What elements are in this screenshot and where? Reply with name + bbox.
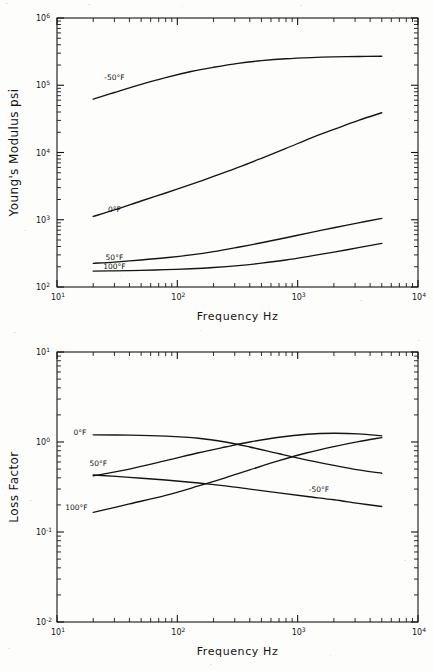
- curve-label: 100°F: [65, 503, 87, 512]
- data-curve: [93, 56, 382, 99]
- y-axis-tick-label: 101: [36, 346, 50, 358]
- scan-artifact-speck: [418, 340, 420, 341]
- x-axis-title: Frequency Hz: [197, 645, 279, 658]
- scan-artifact-speck: [182, 6, 183, 7]
- scan-artifact-speck: [404, 560, 406, 561]
- curve-label: -50°F: [104, 73, 124, 82]
- curve-label: -50°F: [309, 485, 329, 494]
- scan-artifact-speck: [24, 230, 26, 231]
- y-axis-title: Loss Factor: [7, 451, 21, 522]
- data-curve: [93, 433, 382, 476]
- curve-label: 0°F: [73, 428, 86, 437]
- scan-artifact-speck: [14, 332, 16, 333]
- y-axis-title: Young's Modulus psi: [7, 89, 21, 218]
- x-axis-tick-label: 104: [412, 626, 426, 638]
- data-curve: [93, 218, 382, 263]
- y-axis-tick-label: 106: [36, 12, 50, 24]
- curve-label: 0°F: [108, 205, 121, 214]
- y-axis-tick-label: 10-2: [36, 616, 52, 628]
- scan-artifact-speck: [300, 5, 302, 6]
- y-axis-tick-label: 10-1: [36, 526, 52, 538]
- scan-artifact-speck: [210, 664, 212, 665]
- scan-artifact-speck: [30, 500, 32, 501]
- scan-artifact-speck: [360, 300, 362, 301]
- scan-artifact-speck: [200, 330, 201, 331]
- curve-label: 50°F: [89, 459, 107, 468]
- scan-artifact-speck: [408, 118, 410, 119]
- figure-page: 101102103104102103104105106Frequency HzY…: [0, 0, 434, 671]
- scan-artifact-speck: [10, 96, 12, 98]
- loss-factor-plot: 10110210310410-210-1100101Frequency HzLo…: [0, 340, 434, 671]
- chart-loss-factor: 10110210310410-210-1100101Frequency HzLo…: [0, 340, 434, 671]
- x-axis-tick-label: 104: [412, 291, 426, 303]
- scan-artifact-speck: [6, 3, 8, 4]
- x-axis-tick-label: 102: [171, 626, 185, 638]
- x-axis-tick-label: 101: [51, 626, 65, 638]
- y-axis-tick-label: 100: [36, 436, 50, 448]
- scan-artifact-speck: [88, 4, 90, 5]
- y-axis-tick-label: 105: [36, 79, 50, 91]
- x-axis-title: Frequency Hz: [197, 310, 279, 323]
- y-axis-tick-label: 104: [36, 146, 50, 158]
- scan-artifact-speck: [330, 655, 331, 656]
- y-axis-tick-label: 102: [36, 281, 50, 293]
- scan-artifact-speck: [392, 10, 393, 11]
- scan-artifact-speck: [8, 648, 10, 649]
- y-axis-tick-label: 103: [36, 213, 50, 225]
- data-curve: [93, 113, 382, 217]
- x-axis-tick-label: 103: [292, 291, 306, 303]
- scan-artifact-speck: [120, 276, 121, 277]
- x-axis-tick-label: 102: [171, 291, 185, 303]
- chart-youngs-modulus: 101102103104102103104105106Frequency HzY…: [0, 0, 434, 340]
- youngs-modulus-plot: 101102103104102103104105106Frequency HzY…: [0, 0, 434, 340]
- x-axis-tick-label: 103: [292, 626, 306, 638]
- curve-label: 100°F: [103, 262, 125, 271]
- data-curve: [93, 438, 382, 513]
- x-axis-tick-label: 101: [51, 291, 65, 303]
